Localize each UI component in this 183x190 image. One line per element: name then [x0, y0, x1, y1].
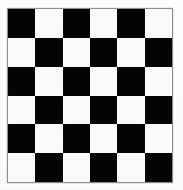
checkerboard-square-light-r1-c4	[90, 9, 117, 38]
checkerboard-square-dark-r6-c6	[145, 153, 172, 182]
checkerboard-square-dark-r3-c3	[63, 67, 90, 96]
checkerboard-square-light-r5-c4	[90, 124, 117, 153]
checkerboard-square-dark-r4-c4	[90, 96, 117, 125]
checkerboard-square-dark-r1-c3	[63, 9, 90, 38]
checkerboard-square-dark-r4-c2	[35, 96, 62, 125]
checkerboard-square-light-r6-c5	[117, 153, 144, 182]
checkerboard-square-dark-r5-c1	[8, 124, 35, 153]
checkerboard-square-dark-r3-c1	[8, 67, 35, 96]
checkerboard-square-dark-r3-c5	[117, 67, 144, 96]
page-canvas	[0, 0, 183, 190]
checkerboard-square-light-r4-c3	[63, 96, 90, 125]
checkerboard-square-light-r1-c6	[145, 9, 172, 38]
checkerboard-square-light-r5-c2	[35, 124, 62, 153]
checkerboard-square-light-r1-c2	[35, 9, 62, 38]
checkerboard-square-dark-r2-c2	[35, 38, 62, 67]
checkerboard-square-dark-r6-c2	[35, 153, 62, 182]
checkerboard-square-light-r3-c4	[90, 67, 117, 96]
checkerboard-square-light-r2-c1	[8, 38, 35, 67]
checkerboard-square-dark-r1-c5	[117, 9, 144, 38]
checkerboard-square-dark-r5-c3	[63, 124, 90, 153]
checkerboard-square-dark-r5-c5	[117, 124, 144, 153]
checkerboard-frame	[7, 8, 173, 183]
checkerboard-square-light-r2-c5	[117, 38, 144, 67]
checkerboard-square-dark-r6-c4	[90, 153, 117, 182]
checkerboard-square-light-r5-c6	[145, 124, 172, 153]
checkerboard-square-light-r4-c1	[8, 96, 35, 125]
checkerboard-square-dark-r2-c6	[145, 38, 172, 67]
checkerboard-square-light-r6-c1	[8, 153, 35, 182]
checkerboard-square-light-r2-c3	[63, 38, 90, 67]
checkerboard-square-dark-r4-c6	[145, 96, 172, 125]
checkerboard-square-dark-r1-c1	[8, 9, 35, 38]
checkerboard-square-dark-r2-c4	[90, 38, 117, 67]
checkerboard-square-light-r3-c6	[145, 67, 172, 96]
checkerboard-grid	[8, 9, 172, 182]
checkerboard-square-light-r6-c3	[63, 153, 90, 182]
checkerboard-square-light-r4-c5	[117, 96, 144, 125]
checkerboard-square-light-r3-c2	[35, 67, 62, 96]
